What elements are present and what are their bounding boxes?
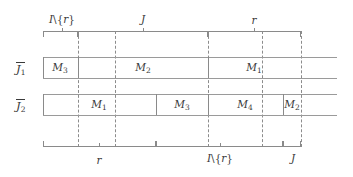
row-J1-divider-2 xyxy=(208,57,209,78)
top-bracket-1-label: I\{r} xyxy=(49,14,75,25)
segment-J2-M3-label: M3 xyxy=(174,99,190,111)
dashed-guide-4 xyxy=(262,31,263,147)
bottom-tick-1 xyxy=(99,143,100,147)
interval-exchange-diagram: I\{r} J r J1 M3 M2 M1 J2 M1 xyxy=(0,0,353,177)
top-tick-2 xyxy=(143,28,144,32)
row-J2-label: J2 xyxy=(16,101,25,113)
segment-J2-M4-label: M4 xyxy=(237,99,253,111)
bottom-bracket-3 xyxy=(283,141,301,147)
top-bracket-1 xyxy=(43,31,78,37)
row-J2-top-rule xyxy=(43,94,337,95)
top-bracket-3-label: r xyxy=(251,15,256,26)
dashed-guide-3 xyxy=(208,31,209,147)
row-J1-left-cap xyxy=(43,57,44,78)
top-tick-3 xyxy=(254,28,255,32)
row-J2-divider-1 xyxy=(156,94,157,115)
row-J2-divider-2 xyxy=(208,94,209,115)
row-J2-left-cap xyxy=(43,94,44,115)
bottom-tick-2 xyxy=(220,143,221,147)
bottom-bracket-1-label: r xyxy=(96,155,101,166)
top-bracket-2-label: J xyxy=(141,14,145,25)
segment-J2-M1-label: M1 xyxy=(91,99,107,111)
row-J1-bottom-rule xyxy=(43,78,337,79)
segment-J1-M2-label: M2 xyxy=(135,62,151,74)
row-J1-top-rule xyxy=(43,57,337,58)
dashed-guide-2 xyxy=(115,31,116,147)
segment-J1-M1-label: M1 xyxy=(246,62,262,74)
dashed-guide-1 xyxy=(78,31,79,147)
segment-J1-M3-label: M3 xyxy=(52,62,68,74)
row-J1-label: J1 xyxy=(16,64,25,76)
dashed-guide-5 xyxy=(301,31,302,147)
row-J1-divider-1 xyxy=(78,57,79,78)
bottom-bracket-3-label: J xyxy=(291,153,295,164)
segment-J2-M2-label: M2 xyxy=(284,99,300,111)
top-tick-1 xyxy=(62,28,63,32)
bottom-bracket-2-label: I\{r} xyxy=(207,153,233,164)
row-J2-bottom-rule xyxy=(43,115,337,116)
